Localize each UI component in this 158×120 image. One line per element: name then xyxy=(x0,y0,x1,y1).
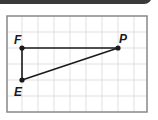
label-f: F xyxy=(14,33,22,47)
label-e: E xyxy=(14,85,23,99)
grid xyxy=(7,16,147,112)
point-e xyxy=(19,77,24,82)
label-p: P xyxy=(119,32,128,46)
point-p xyxy=(115,45,120,50)
triangle-diagram: F P E xyxy=(0,0,158,120)
